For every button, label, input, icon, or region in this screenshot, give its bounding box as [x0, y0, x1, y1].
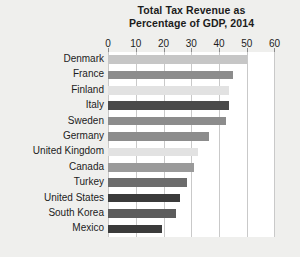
category-label: United Kingdom: [33, 145, 104, 157]
category-label: Turkey: [74, 176, 104, 188]
category-label: Germany: [63, 130, 104, 142]
bar-row: Germany: [0, 129, 300, 144]
bar: [108, 101, 229, 110]
bar: [108, 225, 162, 234]
bar-row: Mexico: [0, 221, 300, 236]
bar: [108, 132, 209, 141]
bar: [108, 178, 187, 187]
x-tick-label: 60: [269, 38, 280, 50]
bar-row: Italy: [0, 98, 300, 113]
category-label: Finland: [71, 84, 104, 96]
bar: [108, 148, 198, 157]
bar: [108, 194, 180, 203]
chart-title-line-2: Percentage of GDP, 2014: [108, 17, 275, 30]
chart-title: Total Tax Revenue as Percentage of GDP, …: [108, 4, 275, 30]
bar-row: France: [0, 67, 300, 82]
bar: [108, 71, 233, 80]
bar-row: United States: [0, 191, 300, 206]
category-label: United States: [44, 192, 104, 204]
bar: [108, 117, 226, 126]
x-axis-tick-labels: 0102030405060: [0, 38, 300, 51]
bar: [108, 163, 194, 172]
bar-row: Sweden: [0, 114, 300, 129]
category-label: Canada: [69, 161, 104, 173]
category-label: Sweden: [68, 115, 104, 127]
bar: [108, 86, 229, 95]
chart-title-line-1: Total Tax Revenue as: [108, 4, 275, 17]
category-label: South Korea: [48, 207, 104, 219]
category-label: Denmark: [63, 53, 104, 65]
bar-row: Denmark: [0, 52, 300, 67]
tax-revenue-bar-chart: Total Tax Revenue as Percentage of GDP, …: [0, 0, 300, 257]
bar-row: Turkey: [0, 175, 300, 190]
bar-row: South Korea: [0, 206, 300, 221]
bar: [108, 55, 247, 64]
category-label: Italy: [86, 99, 104, 111]
bar-row: Finland: [0, 83, 300, 98]
bar: [108, 209, 176, 218]
bar-row: United Kingdom: [0, 144, 300, 159]
category-label: France: [73, 68, 104, 80]
bar-row: Canada: [0, 160, 300, 175]
category-label: Mexico: [72, 222, 104, 234]
bar-rows: DenmarkFranceFinlandItalySwedenGermanyUn…: [0, 52, 300, 237]
